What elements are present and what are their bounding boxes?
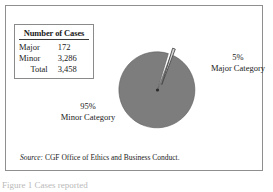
figure-caption: Figure 1 Cases reported: [2, 180, 122, 192]
pie-center-dot: [156, 88, 159, 91]
source-note: Source: CGF Office of Ethics and Busines…: [20, 153, 180, 163]
source-label: Source:: [20, 153, 43, 162]
pie-chart-svg: [110, 36, 210, 140]
table-cell-label: Minor: [19, 53, 50, 64]
cases-table-body: Major 172 Minor 3,286 Total 3,458: [19, 42, 89, 75]
label-major-category: 5% Major Category: [202, 52, 273, 74]
label-minor-category: 95% Minor Category: [44, 101, 132, 123]
source-text: CGF Office of Ethics and Business Conduc…: [43, 153, 180, 162]
pie-chart: [110, 36, 210, 140]
table-cell-label: Total: [19, 64, 50, 75]
label-minor-percent: 95%: [44, 101, 132, 112]
table-cell-label: Major: [19, 42, 50, 53]
figure-frame: Number of Cases Major 172 Minor 3,286 To…: [5, 5, 263, 171]
table-row: Minor 3,286: [19, 53, 89, 64]
table-row: Total 3,458: [19, 64, 89, 75]
label-major-name: Major Category: [202, 63, 273, 74]
label-minor-name: Minor Category: [44, 112, 132, 123]
table-title: Number of Cases: [19, 28, 89, 40]
table-cell-value: 3,458: [50, 64, 89, 75]
label-major-percent: 5%: [202, 52, 273, 63]
table-cell-value: 3,286: [50, 53, 89, 64]
table-cell-value: 172: [50, 42, 89, 53]
cases-table: Number of Cases Major 172 Minor 3,286 To…: [14, 24, 94, 79]
table-row: Major 172: [19, 42, 89, 53]
